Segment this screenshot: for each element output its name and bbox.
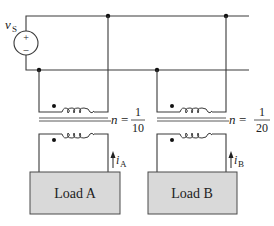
source-minus-sign: –	[23, 44, 30, 55]
bus-wires	[26, 16, 249, 70]
transformer-b-primary-polarity-dot	[170, 104, 174, 108]
current-a-label: i	[116, 153, 119, 167]
transformer-a-secondary-polarity-dot	[52, 138, 56, 142]
transformer-b-ratio-equals: =	[239, 112, 246, 127]
circuit-diagram: + – v S n = 1 10 i A	[0, 0, 274, 226]
junction-dots	[37, 14, 228, 72]
current-a-arrow-icon	[111, 151, 116, 158]
bottom-bus-wire	[26, 55, 249, 70]
transformer-b-primary-wire	[157, 16, 226, 112]
source-label-subscript: S	[12, 24, 17, 34]
transformer-a-primary-wire	[39, 16, 108, 112]
top-bus-wire	[26, 16, 249, 31]
source-label: v	[5, 17, 11, 32]
voltage-source: + – v S	[5, 17, 38, 55]
transformer-b-ratio-denominator: 20	[256, 121, 268, 135]
transformer-b-secondary-polarity-dot	[170, 138, 174, 142]
load-a-label: Load A	[54, 186, 96, 201]
current-b-label-subscript: B	[238, 159, 244, 169]
transformer-b-ratio-numerator: 1	[259, 105, 265, 119]
transformer-b-ratio-var: n	[229, 112, 236, 127]
transformer-a-primary-coil	[62, 108, 94, 113]
transformer-a-ratio-numerator: 1	[135, 105, 141, 119]
load-a: Load A	[30, 172, 120, 214]
current-b-arrow-icon	[229, 151, 234, 158]
transformer-b-secondary-coil	[180, 133, 212, 138]
transformer-a-ratio-var: n	[111, 112, 118, 127]
transformer-b-secondary-wire	[157, 134, 226, 172]
transformer-a-secondary-wire	[39, 134, 108, 172]
load-b-label: Load B	[171, 186, 213, 201]
load-b: Load B	[148, 172, 237, 214]
transformer-a: n = 1 10 i A	[39, 16, 145, 172]
current-b-label: i	[234, 153, 237, 167]
transformer-b-primary-coil	[180, 108, 212, 113]
transformer-a-ratio-denominator: 10	[132, 121, 144, 135]
transformer-a-primary-polarity-dot	[52, 104, 56, 108]
current-a-label-subscript: A	[120, 159, 127, 169]
transformer-a-ratio-equals: =	[121, 112, 128, 127]
transformer-a-secondary-coil	[62, 133, 94, 138]
transformer-b: n = 1 20 i B	[157, 16, 270, 172]
source-plus-sign: +	[23, 32, 29, 43]
